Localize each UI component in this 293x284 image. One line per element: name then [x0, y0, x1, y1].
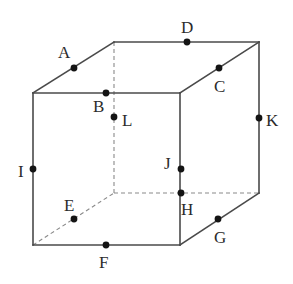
point-label-d: D — [181, 18, 193, 37]
cube-diagram-canvas: ABCDEFGHIJKL — [0, 0, 293, 284]
point-label-k: K — [266, 111, 279, 130]
point-label-a: A — [58, 43, 71, 62]
cube-diagram-figure: ABCDEFGHIJKL — [0, 0, 293, 284]
point-dot-j — [178, 166, 185, 173]
point-label-g: G — [214, 228, 226, 247]
point-dot-i — [30, 166, 37, 173]
point-dot-h — [178, 190, 185, 197]
point-label-b: B — [93, 97, 104, 116]
point-dot-d — [184, 39, 191, 46]
point-label-h: H — [181, 200, 193, 219]
point-dot-l — [111, 114, 118, 121]
point-label-c: C — [214, 77, 225, 96]
point-dot-f — [103, 242, 110, 249]
point-dot-e — [71, 216, 78, 223]
point-label-j: J — [164, 154, 171, 173]
point-label-l: L — [122, 111, 132, 130]
point-label-f: F — [99, 253, 108, 272]
point-label-i: I — [18, 162, 24, 181]
point-dot-c — [216, 65, 223, 72]
point-dot-g — [215, 216, 222, 223]
point-dot-k — [256, 115, 263, 122]
point-dot-b — [103, 90, 110, 97]
point-dot-a — [71, 65, 78, 72]
point-label-e: E — [64, 196, 74, 215]
